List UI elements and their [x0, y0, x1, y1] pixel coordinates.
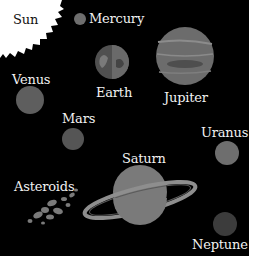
label-earth: Earth	[96, 86, 132, 99]
neptune-icon	[213, 212, 237, 236]
solar-system-diagram: Sun Mercury Venus Earth Mars Jupiter Sat…	[0, 0, 249, 256]
jupiter-icon	[156, 27, 214, 85]
label-jupiter: Jupiter	[164, 91, 208, 104]
mercury-icon	[74, 13, 86, 25]
earth-icon	[95, 45, 129, 79]
label-mercury: Mercury	[89, 12, 144, 25]
mars-icon	[62, 128, 84, 150]
label-venus: Venus	[12, 73, 50, 86]
venus-icon	[16, 86, 44, 114]
label-saturn: Saturn	[122, 152, 166, 165]
label-uranus: Uranus	[201, 126, 248, 139]
label-neptune: Neptune	[192, 238, 248, 251]
label-asteroids: Asteroids	[14, 180, 74, 193]
label-mars: Mars	[62, 112, 95, 125]
uranus-icon	[215, 141, 239, 165]
saturn-icon	[82, 165, 198, 225]
sun-icon	[0, 0, 64, 58]
label-sun: Sun	[13, 13, 38, 26]
